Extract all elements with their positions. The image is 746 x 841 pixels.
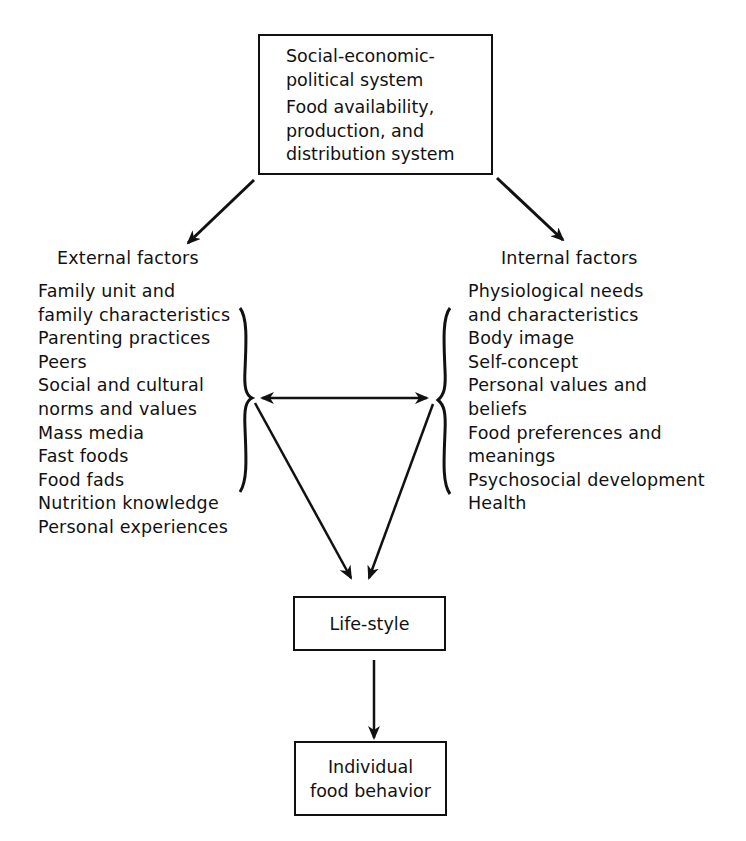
list-item: Body image [468, 327, 705, 351]
social-system-line: political system [286, 69, 455, 93]
arrow-to-internal-factors [497, 178, 563, 240]
list-item: meanings [468, 445, 705, 469]
list-item: family characteristics [38, 304, 230, 328]
list-item: Nutrition knowledge [38, 492, 230, 516]
list-item: Food preferences and [468, 422, 705, 446]
external-factors-brace [240, 308, 252, 492]
food-behavior-line: Individual [328, 755, 413, 779]
social-system-line: Social-economic- [286, 45, 455, 69]
arrow-to-external-factors [188, 180, 254, 243]
food-system-line: production, and [286, 120, 455, 144]
list-item: beliefs [468, 398, 705, 422]
external-factors-list: Family unit and family characteristics P… [38, 280, 230, 540]
food-behavior-box: Individual food behavior [294, 741, 447, 816]
list-item: Peers [38, 351, 230, 375]
list-item: and characteristics [468, 304, 705, 328]
list-item: Psychosocial development [468, 469, 705, 493]
list-item: Family unit and [38, 280, 230, 304]
list-item: Food fads [38, 469, 230, 493]
social-system-box: Social-economic- political system Food a… [258, 34, 493, 175]
list-item: Self-concept [468, 351, 705, 375]
list-item: Social and cultural [38, 374, 230, 398]
list-item: norms and values [38, 398, 230, 422]
food-system-line: Food availability, [286, 96, 455, 120]
list-item: Personal experiences [38, 516, 230, 540]
internal-factors-heading: Internal factors [501, 247, 638, 271]
food-behavior-line: food behavior [310, 779, 431, 803]
lifestyle-label: Life-style [330, 614, 410, 634]
list-item: Physiological needs [468, 280, 705, 304]
internal-factors-list: Physiological needs and characteristics … [468, 280, 705, 516]
list-item: Parenting practices [38, 327, 230, 351]
list-item: Mass media [38, 422, 230, 446]
arrow-external-to-lifestyle [255, 403, 351, 578]
internal-factors-brace [438, 308, 450, 494]
lifestyle-box: Life-style [293, 596, 446, 651]
list-item: Health [468, 492, 705, 516]
arrow-internal-to-lifestyle [369, 404, 433, 578]
list-item: Personal values and [468, 374, 705, 398]
food-system-line: distribution system [286, 143, 455, 167]
external-factors-heading: External factors [57, 247, 199, 271]
social-system-text: Social-economic- political system Food a… [286, 45, 455, 167]
list-item: Fast foods [38, 445, 230, 469]
